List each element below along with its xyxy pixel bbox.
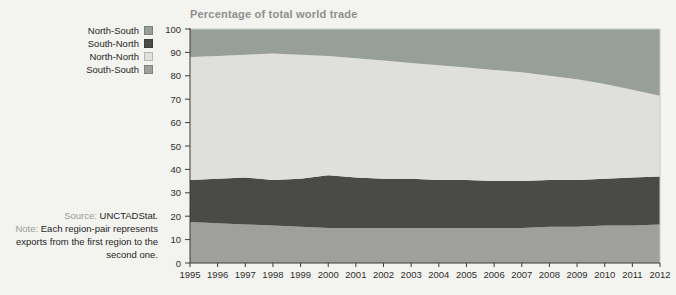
x-axis-tick-label: 2007 bbox=[511, 269, 532, 280]
legend-item-north-south: North-South bbox=[0, 24, 153, 37]
x-axis-tick-label: 1997 bbox=[235, 269, 256, 280]
y-axis-tick-label: 20 bbox=[170, 211, 181, 222]
x-axis-tick-label: 2012 bbox=[649, 269, 670, 280]
x-axis-tick-label: 2006 bbox=[484, 269, 505, 280]
x-axis-tick-label: 1996 bbox=[207, 269, 228, 280]
legend-swatch-north-north bbox=[144, 52, 153, 61]
x-axis-tick-label: 2011 bbox=[622, 269, 642, 280]
legend-swatch-south-north bbox=[144, 39, 153, 48]
y-axis-tick-label: 10 bbox=[170, 234, 181, 245]
note-line: Note: Each region-pair represents export… bbox=[0, 222, 158, 261]
legend-item-south-south: South-South bbox=[0, 63, 153, 76]
x-axis-tick-label: 1999 bbox=[290, 269, 311, 280]
y-axis-tick-label: 50 bbox=[170, 141, 181, 152]
legend-label: North-South bbox=[88, 25, 139, 36]
area-south-north bbox=[190, 175, 660, 228]
note-text: Each region-pair represents exports from… bbox=[16, 223, 158, 260]
legend-swatch-south-south bbox=[144, 65, 153, 74]
x-axis-tick-label: 1995 bbox=[179, 269, 200, 280]
y-axis-tick-label: 100 bbox=[165, 24, 181, 35]
y-axis-tick-label: 70 bbox=[170, 94, 181, 105]
x-axis-tick-label: 2001 bbox=[345, 269, 366, 280]
y-axis-tick-label: 40 bbox=[170, 164, 181, 175]
x-axis-tick-label: 2010 bbox=[594, 269, 615, 280]
legend-label: South-South bbox=[86, 64, 139, 75]
x-axis-tick-label: 2008 bbox=[539, 269, 560, 280]
note-label: Note: bbox=[15, 223, 38, 234]
legend-swatch-north-south bbox=[144, 26, 153, 35]
chart-title: Percentage of total world trade bbox=[190, 8, 358, 20]
source-note: Source: UNCTADStat. Note: Each region-pa… bbox=[0, 209, 158, 261]
x-axis-tick-label: 2004 bbox=[428, 269, 449, 280]
y-axis-tick-label: 80 bbox=[170, 70, 181, 81]
legend-item-south-north: South-North bbox=[0, 37, 153, 50]
figure: 0102030405060708090100199519961997199819… bbox=[0, 0, 676, 295]
legend-item-north-north: North-North bbox=[0, 50, 153, 63]
legend-label: South-North bbox=[88, 38, 139, 49]
source-value: UNCTADStat. bbox=[100, 210, 158, 221]
y-axis-tick-label: 30 bbox=[170, 187, 181, 198]
x-axis-tick-label: 2009 bbox=[566, 269, 587, 280]
source-line: Source: UNCTADStat. bbox=[0, 209, 158, 222]
legend: North-South South-North North-North Sout… bbox=[0, 24, 153, 76]
source-label: Source: bbox=[64, 210, 97, 221]
x-axis-tick-label: 2000 bbox=[318, 269, 339, 280]
x-axis-tick-label: 2002 bbox=[373, 269, 394, 280]
x-axis-tick-label: 2005 bbox=[456, 269, 477, 280]
y-axis-tick-label: 90 bbox=[170, 47, 181, 58]
area-south-south bbox=[190, 222, 660, 263]
x-axis-tick-label: 2003 bbox=[401, 269, 422, 280]
x-axis-tick-label: 1998 bbox=[262, 269, 283, 280]
y-axis-tick-label: 0 bbox=[176, 258, 181, 269]
y-axis-tick-label: 60 bbox=[170, 117, 181, 128]
legend-label: North-North bbox=[89, 51, 139, 62]
